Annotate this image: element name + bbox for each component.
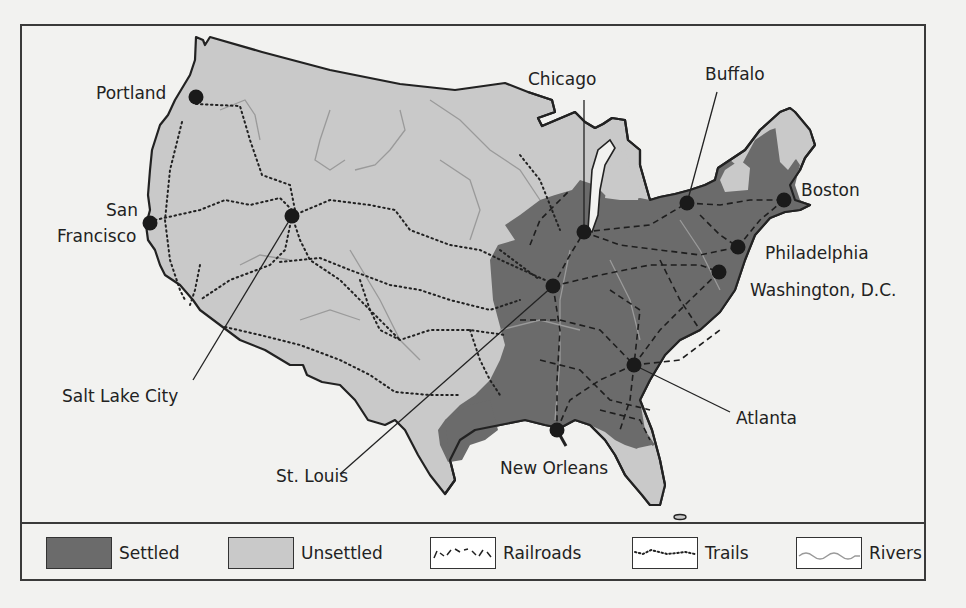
railroad-line-icon	[430, 537, 496, 569]
florida-keys	[674, 515, 686, 520]
city-label-st-louis: St. Louis	[276, 468, 348, 485]
legend-label-settled: Settled	[119, 543, 180, 563]
legend-item-rivers: Rivers	[796, 536, 922, 570]
leader-atlanta	[634, 365, 730, 412]
legend-divider	[20, 522, 926, 524]
legend-label-unsettled: Unsettled	[301, 543, 383, 563]
city-label-san-francisco-line2: Francisco	[57, 228, 136, 245]
city-dot-buffalo[interactable]	[680, 196, 695, 211]
legend-item-trails: Trails	[632, 536, 749, 570]
city-dot-portland[interactable]	[189, 90, 204, 105]
city-dot-salt-lake-city[interactable]	[285, 209, 300, 224]
unsettled-swatch-icon	[228, 537, 294, 569]
city-dot-new-orleans[interactable]	[550, 423, 565, 438]
legend-label-railroads: Railroads	[503, 543, 581, 563]
city-dot-atlanta[interactable]	[627, 358, 642, 373]
legend-item-railroads: Railroads	[430, 536, 581, 570]
city-dot-san-francisco[interactable]	[143, 216, 158, 231]
city-dot-chicago[interactable]	[577, 225, 592, 240]
city-dot-washington-dc[interactable]	[712, 265, 727, 280]
city-label-boston: Boston	[801, 182, 860, 199]
river-line-icon	[796, 537, 862, 569]
maine-unsettled	[775, 110, 812, 170]
legend-label-trails: Trails	[705, 543, 749, 563]
city-label-philadelphia: Philadelphia	[765, 245, 869, 262]
city-label-washington-dc: Washington, D.C.	[750, 282, 896, 299]
trail-line-icon	[632, 537, 698, 569]
settled-swatch-icon	[46, 537, 112, 569]
city-label-chicago: Chicago	[528, 71, 596, 88]
city-label-san-francisco-line1: San	[106, 202, 138, 219]
city-dot-st-louis[interactable]	[546, 279, 561, 294]
city-dot-boston[interactable]	[777, 193, 792, 208]
legend-item-settled: Settled	[46, 536, 180, 570]
legend-item-unsettled: Unsettled	[228, 536, 383, 570]
city-label-salt-lake-city: Salt Lake City	[62, 388, 178, 405]
city-label-portland: Portland	[96, 85, 166, 102]
legend-label-rivers: Rivers	[869, 543, 922, 563]
city-dot-philadelphia[interactable]	[731, 240, 746, 255]
city-label-atlanta: Atlanta	[736, 410, 797, 427]
city-label-new-orleans: New Orleans	[500, 460, 608, 477]
city-label-buffalo: Buffalo	[705, 66, 765, 83]
